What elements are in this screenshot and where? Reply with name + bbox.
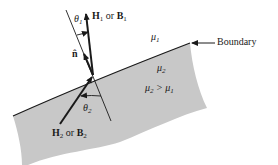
theta2-arc <box>81 96 101 97</box>
mu2-label: μ2 <box>157 63 166 75</box>
region-mu2 <box>13 43 207 165</box>
theta1-label: θ1 <box>74 14 82 26</box>
mu-relation-label: μ2 > μ1 <box>145 83 174 95</box>
boundary-label: Boundary <box>217 37 256 47</box>
h2-b2-label: H2 or B2 <box>52 128 87 140</box>
normal-label: n̂ <box>72 49 78 59</box>
mu1-label: μ1 <box>151 32 160 44</box>
h1-b1-label: H1 or B1 <box>92 11 127 23</box>
theta2-label: θ2 <box>83 103 91 115</box>
diagram-canvas <box>0 0 278 165</box>
theta1-arc <box>77 32 88 35</box>
